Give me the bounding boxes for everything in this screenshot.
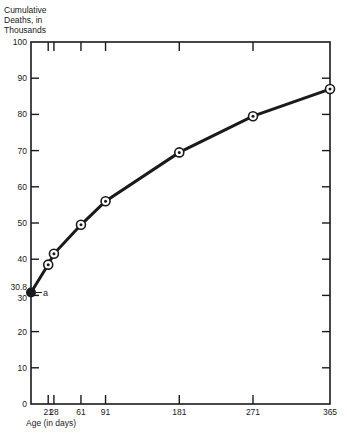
data-point-center [104,200,107,203]
x-tick-label: 365 [323,407,337,417]
y-tick-label: 50 [18,218,28,228]
y-tick-label: 100 [13,37,27,47]
y-tick-label: 80 [18,109,28,119]
plot-frame [31,42,330,404]
y-tick-label: 20 [18,327,28,337]
data-point-center [79,223,82,226]
x-tick-label: 28 [49,407,59,417]
y-tick-label: 30 [18,293,28,303]
annotation-letter: a [43,288,48,298]
annotation-value: 30.8 [10,282,27,292]
x-tick-label: 181 [172,407,186,417]
x-tick-label: 91 [101,407,111,417]
y-tick-label: 40 [18,254,28,264]
y-tick-label: 10 [18,363,28,373]
y-tick-label: 60 [18,182,28,192]
data-point-center [329,88,332,91]
data-line [31,89,330,292]
y-tick-label: 0 [22,399,27,409]
line-chart: 0102030405060708090100212861911812713653… [0,0,347,434]
data-point-center [178,151,181,154]
y-tick-label: 90 [18,73,28,83]
data-point-center [52,252,55,255]
y-tick-label: 70 [18,146,28,156]
data-point-filled [26,288,36,298]
data-point-center [251,115,254,118]
x-tick-label: 271 [246,407,260,417]
x-tick-label: 61 [76,407,86,417]
data-point-center [47,263,50,266]
